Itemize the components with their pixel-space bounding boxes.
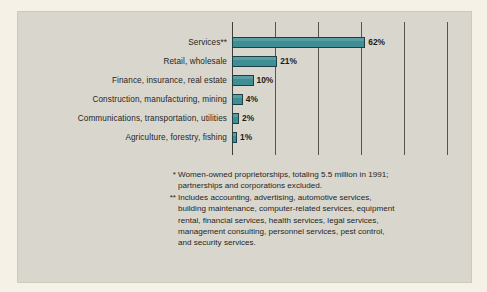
category-label: Construction, manufacturing, mining [0, 95, 227, 104]
bar-group: 4% [232, 90, 258, 109]
category-label: Agriculture, forestry, fishing [0, 133, 227, 142]
bar-value-label: 62% [368, 38, 385, 47]
bar [232, 56, 277, 67]
bar-row-agriculture-forestry-fishing: Agriculture, forestry, fishing 1% [17, 128, 472, 147]
footnote-marker: ** [167, 192, 178, 203]
bar [232, 113, 239, 124]
category-label: Retail, wholesale [0, 57, 227, 66]
footnote-marker: * [167, 169, 178, 180]
category-label: Communications, transportation, utilitie… [0, 114, 227, 123]
bar-row-finance-insurance-real-estate: Finance, insurance, real estate 10% [17, 71, 472, 90]
bar-group: 2% [232, 109, 254, 128]
bar-group: 1% [232, 128, 252, 147]
bar-row-construction-manufacturing-mining: Construction, manufacturing, mining 4% [17, 90, 472, 109]
footnote-double-asterisk: ** Includes accounting, advertising, aut… [167, 192, 467, 249]
category-label: Finance, insurance, real estate [0, 76, 227, 85]
bar-value-label: 2% [242, 114, 254, 123]
bar-value-label: 1% [240, 133, 252, 142]
footnote-text: Women-owned proprietorships, totaling 5.… [178, 169, 467, 192]
category-label: Services** [0, 38, 227, 47]
bar-group: 10% [232, 71, 273, 90]
bar-rows: Services** 62% Retail, wholesale 21% Fin… [17, 11, 472, 161]
bar [232, 75, 254, 86]
bar-group: 62% [232, 33, 385, 52]
bar [232, 132, 237, 143]
bar-value-label: 10% [257, 76, 274, 85]
bar-row-retail-wholesale: Retail, wholesale 21% [17, 52, 472, 71]
bar-chart: Services** 62% Retail, wholesale 21% Fin… [17, 11, 472, 161]
chart-figure: Services** 62% Retail, wholesale 21% Fin… [0, 0, 487, 292]
bar [232, 94, 243, 105]
footnote-text: Includes accounting, advertising, automo… [178, 192, 467, 249]
chart-panel: Services** 62% Retail, wholesale 21% Fin… [17, 11, 472, 283]
bar-value-label: 4% [246, 95, 258, 104]
bar-row-communications-transportation-utilities: Communications, transportation, utilitie… [17, 109, 472, 128]
footnote-single-asterisk: * Women-owned proprietorships, totaling … [167, 169, 467, 192]
bar-group: 21% [232, 52, 297, 71]
bar [232, 37, 365, 48]
bar-value-label: 21% [280, 57, 297, 66]
footnotes: * Women-owned proprietorships, totaling … [167, 169, 467, 249]
bar-row-services: Services** 62% [17, 33, 472, 52]
